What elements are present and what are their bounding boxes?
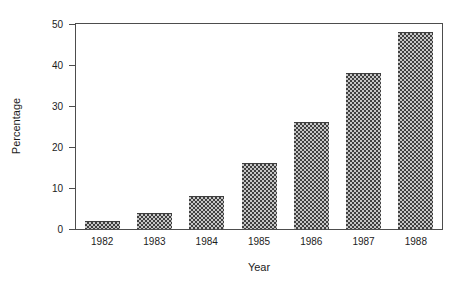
bar-1987: [346, 73, 381, 229]
y-tick-label: 50: [52, 19, 63, 30]
y-tick-label: 30: [52, 101, 63, 112]
y-tick-mark: [69, 24, 75, 25]
y-tick-label: 20: [52, 142, 63, 153]
x-tick-label: 1983: [143, 236, 165, 247]
y-tick-label: 10: [52, 183, 63, 194]
bar-1986: [294, 122, 329, 229]
y-axis-title: Percentage: [10, 98, 22, 154]
y-tick-label: 0: [57, 224, 63, 235]
bar-1988: [398, 32, 433, 229]
x-tick-label: 1985: [248, 236, 270, 247]
y-tick-mark: [69, 229, 75, 230]
x-axis-title: Year: [248, 261, 270, 273]
x-tick-label: 1986: [300, 236, 322, 247]
plot-area: 01020304050 1982198319841985198619871988…: [75, 23, 443, 230]
x-tick-label: 1984: [196, 236, 218, 247]
y-tick-label: 40: [52, 60, 63, 71]
bar-chart-figure: Percentage 01020304050 19821983198419851…: [0, 0, 466, 287]
y-tick-mark: [69, 147, 75, 148]
bar-1984: [189, 196, 224, 229]
x-tick-label: 1988: [405, 236, 427, 247]
x-tick-label: 1982: [91, 236, 113, 247]
y-tick-mark: [69, 65, 75, 66]
bar-1982: [85, 221, 120, 229]
bar-1983: [137, 213, 172, 229]
y-tick-mark: [69, 188, 75, 189]
x-tick-label: 1987: [352, 236, 374, 247]
y-tick-mark: [69, 106, 75, 107]
bar-1985: [242, 163, 277, 229]
